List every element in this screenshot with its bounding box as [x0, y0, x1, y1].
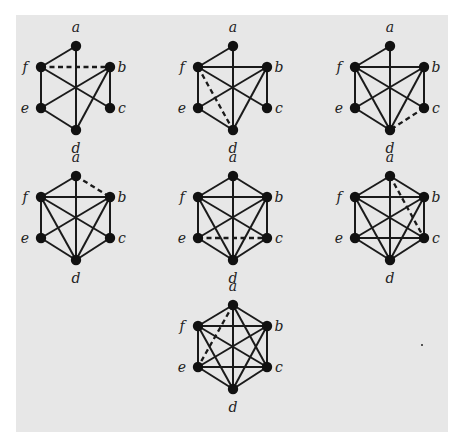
node-d — [228, 255, 238, 265]
node-a — [228, 300, 238, 310]
node-label-a: a — [229, 19, 237, 35]
graph-3: abcdef — [335, 19, 441, 156]
graph-sequence-figure: abcdefabcdefabcdefabcdefabcdefabcdefabcd… — [0, 0, 463, 447]
node-label-b: b — [275, 318, 284, 334]
node-label-f: f — [21, 59, 30, 75]
node-c — [419, 233, 429, 243]
node-c — [105, 233, 115, 243]
node-label-e: e — [21, 100, 29, 116]
graph-7: abcdef — [178, 278, 284, 415]
node-label-c: c — [118, 230, 126, 246]
node-label-a: a — [72, 19, 80, 35]
edge-ed — [41, 108, 76, 130]
node-label-f: f — [335, 59, 344, 75]
node-b — [105, 192, 115, 202]
node-d — [71, 255, 81, 265]
node-a — [71, 171, 81, 181]
node-d — [385, 125, 395, 135]
node-b — [419, 192, 429, 202]
node-label-f: f — [335, 189, 344, 205]
stray-dot — [421, 344, 423, 346]
node-e — [193, 362, 203, 372]
node-a — [385, 171, 395, 181]
node-e — [36, 233, 46, 243]
node-label-b: b — [275, 59, 284, 75]
node-label-b: b — [432, 59, 441, 75]
node-label-e: e — [178, 100, 186, 116]
node-d — [71, 125, 81, 135]
node-label-f: f — [21, 189, 30, 205]
node-label-f: f — [178, 318, 187, 334]
node-label-c: c — [275, 100, 283, 116]
node-label-b: b — [118, 59, 127, 75]
node-label-b: b — [118, 189, 127, 205]
node-a — [228, 171, 238, 181]
node-c — [419, 103, 429, 113]
node-label-d: d — [386, 270, 395, 286]
node-b — [262, 321, 272, 331]
node-label-a: a — [229, 278, 237, 294]
node-e — [350, 233, 360, 243]
node-f — [36, 192, 46, 202]
node-d — [228, 384, 238, 394]
node-label-a: a — [386, 149, 394, 165]
edge-af — [41, 176, 76, 197]
node-f — [350, 62, 360, 72]
graph-4: abcdef — [21, 149, 127, 286]
node-d — [228, 125, 238, 135]
graph-6: abcdef — [335, 149, 441, 286]
node-label-f: f — [178, 189, 187, 205]
node-label-a: a — [72, 149, 80, 165]
node-e — [193, 233, 203, 243]
node-b — [419, 62, 429, 72]
node-c — [262, 103, 272, 113]
graph-2: abcdef — [178, 19, 284, 156]
node-label-e: e — [178, 230, 186, 246]
node-label-c: c — [432, 230, 440, 246]
node-label-c: c — [118, 100, 126, 116]
node-c — [105, 103, 115, 113]
graph-1: abcdef — [21, 19, 127, 156]
node-f — [193, 192, 203, 202]
node-label-a: a — [229, 149, 237, 165]
node-label-d: d — [72, 270, 81, 286]
node-e — [36, 103, 46, 113]
node-a — [228, 41, 238, 51]
node-f — [350, 192, 360, 202]
node-label-b: b — [275, 189, 284, 205]
node-label-c: c — [275, 230, 283, 246]
node-f — [193, 62, 203, 72]
edge-af — [355, 46, 390, 67]
node-label-e: e — [21, 230, 29, 246]
node-e — [193, 103, 203, 113]
node-a — [385, 41, 395, 51]
edge-ab-dashed — [76, 176, 110, 197]
node-label-a: a — [386, 19, 394, 35]
node-label-c: c — [275, 359, 283, 375]
node-c — [262, 362, 272, 372]
node-label-f: f — [178, 59, 187, 75]
node-label-e: e — [335, 230, 343, 246]
node-a — [71, 41, 81, 51]
edge-af — [355, 176, 390, 197]
node-f — [193, 321, 203, 331]
edge-af — [198, 176, 233, 197]
node-label-d: d — [229, 399, 238, 415]
graph-5: abcdef — [178, 149, 284, 286]
node-label-e: e — [178, 359, 186, 375]
edge-af — [198, 46, 233, 67]
node-e — [350, 103, 360, 113]
node-label-c: c — [432, 100, 440, 116]
node-d — [385, 255, 395, 265]
edge-ab — [233, 176, 267, 197]
node-b — [105, 62, 115, 72]
node-b — [262, 192, 272, 202]
node-b — [262, 62, 272, 72]
edge-af — [41, 46, 76, 67]
node-label-e: e — [335, 100, 343, 116]
node-f — [36, 62, 46, 72]
node-label-b: b — [432, 189, 441, 205]
node-c — [262, 233, 272, 243]
